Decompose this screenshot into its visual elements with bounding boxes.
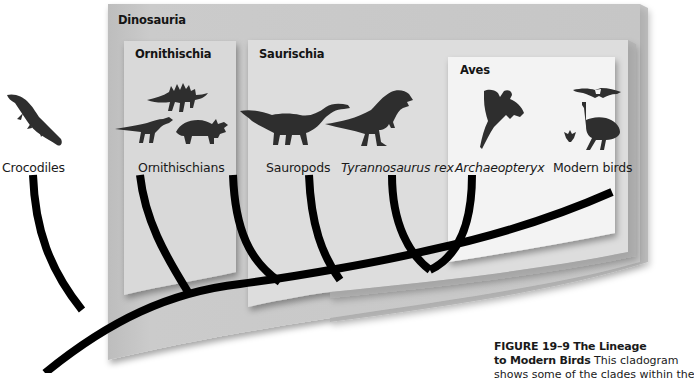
- stegosaurus-icon: [145, 82, 210, 115]
- archaeopteryx-icon: [476, 87, 526, 151]
- taxon-label-archaeopteryx: Archaeopteryx: [455, 160, 544, 175]
- figure-title-line-2: to Modern Birds: [494, 354, 591, 367]
- small-bird-icon: [562, 128, 578, 144]
- caption-line-3: shows some of the clades within the: [494, 368, 664, 382]
- figure-number: FIGURE 19–9: [494, 340, 570, 353]
- ornithopod-icon: [115, 115, 175, 145]
- group-title-aves: Aves: [460, 63, 490, 77]
- taxon-label-modern-birds: Modern birds: [553, 160, 632, 175]
- group-title-ornithischia: Ornithischia: [135, 47, 211, 61]
- tyrannosaurus-icon: [325, 88, 413, 148]
- eagle-icon: [573, 84, 623, 100]
- caption-line-1: FIGURE 19–9 The Lineage: [494, 340, 664, 354]
- taxon-label-crocodiles: Crocodiles: [2, 160, 65, 175]
- taxon-label-tyrannosaurus-rex: Tyrannosaurus rex: [341, 160, 454, 175]
- taxon-label-ornithischians: Ornithischians: [138, 160, 225, 175]
- group-title-dinosauria: Dinosauria: [118, 13, 186, 27]
- caption-line-2: to Modern Birds This cladogram: [494, 354, 664, 368]
- crocodile-icon: [5, 93, 65, 151]
- group-title-saurischia: Saurischia: [259, 47, 324, 61]
- figure-title-line-1: The Lineage: [573, 340, 646, 353]
- ostrich-icon: [580, 100, 622, 152]
- taxon-label-sauropods: Sauropods: [266, 160, 330, 175]
- triceratops-icon: [174, 116, 229, 146]
- caption-body-start: This cladogram: [594, 354, 679, 367]
- figure-caption: FIGURE 19–9 The Lineage to Modern Birds …: [494, 340, 664, 382]
